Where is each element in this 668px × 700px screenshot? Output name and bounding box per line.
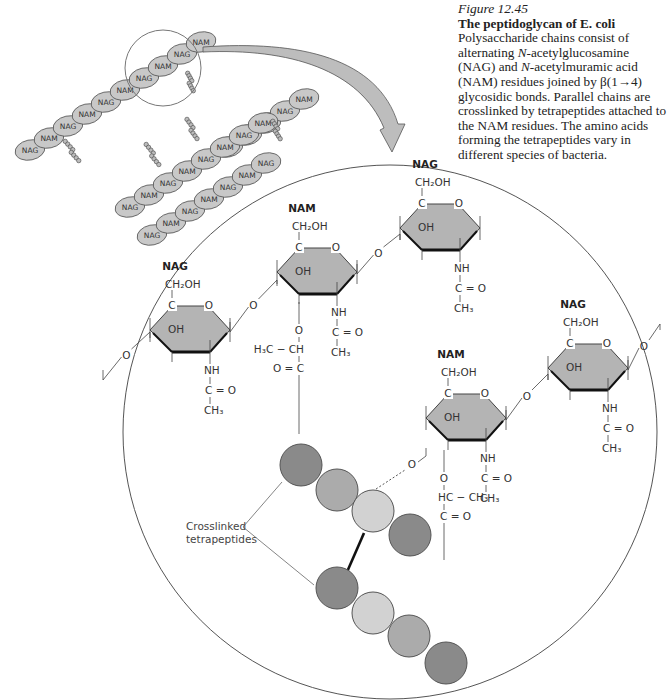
svg-text:O: O [408,458,416,470]
svg-text:tetrapeptides: tetrapeptides [186,533,257,545]
svg-text:CH₂OH: CH₂OH [415,176,451,188]
svg-text:O: O [332,241,340,253]
svg-text:O: O [440,472,448,484]
svg-text:C = O: C = O [603,422,634,434]
svg-text:NH: NH [204,364,220,376]
svg-text:NAG: NAG [220,183,237,192]
svg-text:C: C [295,241,302,253]
svg-text:HC − CH₃: HC − CH₃ [438,491,488,503]
svg-text:NAM: NAM [178,167,195,176]
amino-acid-bead [425,642,467,684]
amino-acid-bead [352,490,394,532]
svg-text:CH₂OH: CH₂OH [441,366,477,378]
svg-text:NH: NH [454,262,470,274]
svg-text:NAM: NAM [140,191,157,200]
svg-text:OH: OH [418,221,434,233]
amino-acid-bead [316,567,358,609]
svg-text:NAM: NAM [40,134,57,143]
svg-text:NAM: NAM [216,143,233,152]
svg-text:NAG: NAG [182,207,199,216]
svg-text:NAG: NAG [22,146,39,155]
amino-acid-bead [388,615,430,657]
amino-acid-bead [280,444,322,486]
svg-text:O = C: O = C [273,362,304,374]
peptide-crosslink [144,142,161,167]
svg-text:CH₃: CH₃ [331,346,350,358]
svg-text:NH: NH [480,452,496,464]
svg-text:NAM: NAM [238,171,255,180]
svg-text:C = O: C = O [440,510,471,522]
peptide-crosslink [185,117,199,141]
svg-text:CH₃: CH₃ [602,442,621,454]
svg-text:NAG: NAG [236,131,253,140]
svg-text:NAM: NAM [254,119,271,128]
svg-text:C = O: C = O [481,472,512,484]
svg-text:O: O [481,387,489,399]
svg-text:NAG: NAG [60,122,77,131]
svg-text:OH: OH [566,361,582,373]
svg-text:NAM: NAM [154,62,171,71]
svg-text:NAG: NAG [144,231,161,240]
svg-text:NH: NH [602,402,618,414]
svg-text:O: O [374,247,382,259]
svg-text:C: C [418,197,425,209]
svg-text:NAM: NAM [437,348,464,360]
svg-text:NAG: NAG [162,260,188,272]
svg-text:CH₂OH: CH₂OH [165,278,201,290]
svg-text:O: O [249,299,257,311]
svg-text:NAG: NAG [98,98,115,107]
svg-text:NAM: NAM [288,202,315,214]
svg-text:NAG: NAG [560,298,586,310]
svg-text:OH: OH [444,411,460,423]
svg-text:H₃C − CH: H₃C − CH [254,343,304,355]
svg-text:NAM: NAM [78,110,95,119]
svg-text:O: O [205,299,213,311]
svg-text:NAG: NAG [122,203,139,212]
svg-text:OH: OH [295,265,311,277]
svg-text:C = O: C = O [332,326,363,338]
svg-text:NAM: NAM [295,95,312,104]
svg-text:NAG: NAG [258,159,275,168]
svg-text:NAG: NAG [198,155,215,164]
svg-text:NAG: NAG [174,50,191,59]
amino-acid-bead [389,514,431,556]
svg-text:NAG: NAG [160,179,177,188]
svg-text:NAG: NAG [136,74,153,83]
svg-text:CH₂OH: CH₂OH [563,316,599,328]
svg-text:Crosslinked: Crosslinked [186,520,246,532]
svg-text:O: O [523,390,531,402]
svg-text:CH₃: CH₃ [204,404,223,416]
svg-text:NAM: NAM [200,195,217,204]
svg-text:O: O [640,340,648,352]
svg-text:O: O [295,324,303,336]
svg-text:O: O [603,337,611,349]
svg-text:C: C [566,337,573,349]
svg-text:NH: NH [331,306,347,318]
svg-text:O: O [122,349,130,361]
svg-text:C = O: C = O [205,384,236,396]
svg-text:O: O [455,197,463,209]
svg-text:NAG: NAG [277,107,294,116]
svg-text:C: C [444,387,451,399]
svg-text:CH₂OH: CH₂OH [292,220,328,232]
svg-text:C: C [168,299,175,311]
svg-text:NAM: NAM [116,86,133,95]
svg-text:CH₃: CH₃ [454,302,473,314]
amino-acid-bead [352,592,394,634]
amino-acid-bead [316,469,358,511]
svg-text:OH: OH [168,323,184,335]
peptide-crosslink [63,139,81,163]
svg-text:NAM: NAM [162,219,179,228]
peptidoglycan-figure: NAMNAGNAMNAGNAMNAGNAMNAGNAMNAGNAMNAGNAMN… [0,0,668,700]
svg-text:NAM: NAM [192,38,209,47]
svg-text:NAG: NAG [412,158,438,170]
svg-text:C = O: C = O [455,282,486,294]
